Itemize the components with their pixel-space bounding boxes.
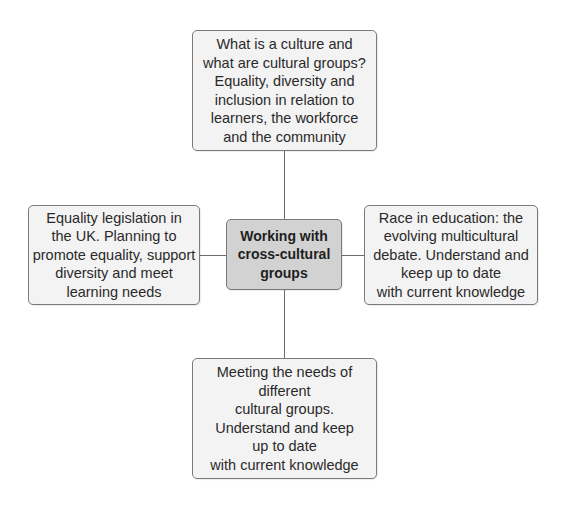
node-left-label: Equality legislation in the UK. Planning… — [33, 209, 196, 302]
node-right-label: Race in education: the evolving multicul… — [373, 209, 529, 302]
connector-right — [342, 255, 364, 256]
node-center-label: Working with cross-cultural groups — [238, 227, 331, 283]
connector-bottom — [284, 290, 285, 358]
node-right-race-in-education: Race in education: the evolving multicul… — [364, 205, 538, 305]
node-left-equality-legislation: Equality legislation in the UK. Planning… — [28, 205, 200, 305]
node-center-working-cross-cultural: Working with cross-cultural groups — [226, 219, 342, 290]
node-bottom-label: Meeting the needs of different cultural … — [210, 363, 358, 474]
connector-top — [284, 150, 285, 219]
node-bottom-meeting-needs: Meeting the needs of different cultural … — [192, 358, 377, 479]
node-top-label: What is a culture and what are cultural … — [203, 35, 366, 146]
node-top-culture-groups: What is a culture and what are cultural … — [192, 30, 377, 151]
connector-left — [200, 255, 226, 256]
